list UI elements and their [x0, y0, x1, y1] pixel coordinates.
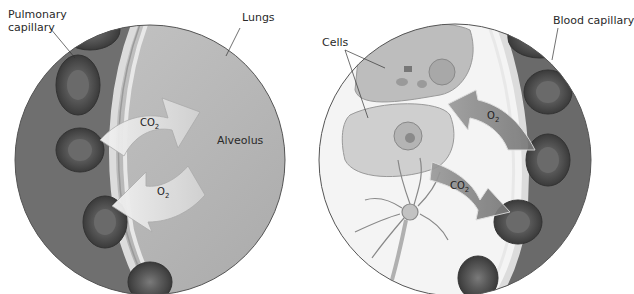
label-o2-right: O2 — [487, 110, 499, 124]
label-lungs: Lungs — [242, 11, 275, 24]
label-alveolus: Alveolus — [217, 134, 263, 147]
tissue-capillary-inset — [310, 0, 626, 294]
upper-cell-nucleus — [429, 59, 455, 85]
lung-alveolus-inset — [0, 0, 300, 294]
lungs-leader — [226, 28, 240, 56]
label-cells: Cells — [322, 36, 348, 49]
label-pulmonary-capillary: Pulmonary capillary — [8, 8, 67, 34]
label-blood-capillary: Blood capillary — [553, 14, 634, 27]
label-o2-left: O2 — [157, 186, 169, 200]
blood-capillary-leader — [552, 28, 558, 60]
label-co2-left: CO2 — [140, 117, 159, 131]
label-co2-right: CO2 — [450, 180, 469, 194]
